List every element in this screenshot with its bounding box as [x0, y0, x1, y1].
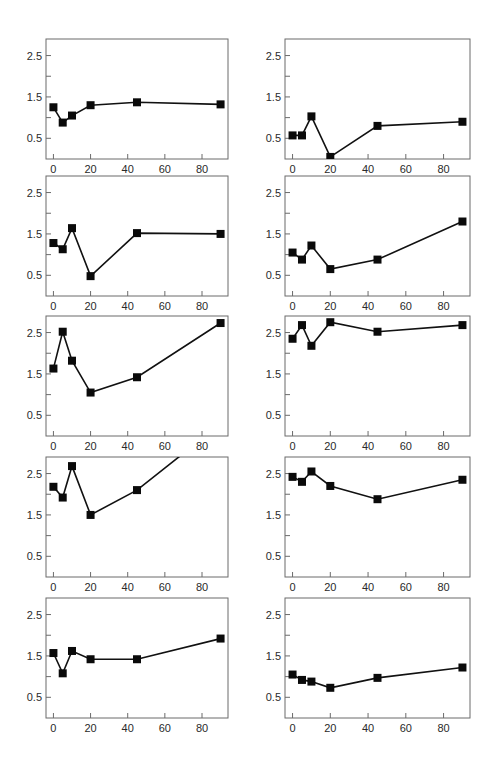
- data-point-square-icon: [289, 249, 297, 257]
- x-tick-label: 20: [324, 581, 336, 593]
- data-point-square-icon: [49, 365, 57, 373]
- y-tick-label: 1.5: [266, 228, 281, 240]
- y-tick-label: 2.5: [27, 187, 42, 199]
- y-tick-label: 2.5: [266, 468, 281, 480]
- x-tick-label: 40: [362, 163, 374, 175]
- data-point-square-icon: [289, 473, 297, 481]
- x-tick-label: 20: [324, 300, 336, 312]
- x-tick-label: 40: [122, 581, 134, 593]
- chart-panel-row2-right: 0.51.52.5020406080: [266, 176, 470, 312]
- data-point-square-icon: [307, 678, 315, 686]
- x-tick-label: 0: [289, 581, 295, 593]
- data-point-square-icon: [133, 229, 141, 237]
- x-tick-label: 40: [362, 581, 374, 593]
- x-tick-label: 80: [437, 722, 449, 734]
- x-tick-label: 20: [84, 163, 96, 175]
- x-tick-label: 40: [362, 300, 374, 312]
- x-tick-label: 60: [159, 722, 171, 734]
- data-point-square-icon: [68, 462, 76, 470]
- x-tick-label: 0: [50, 163, 56, 175]
- data-point-square-icon: [298, 321, 306, 329]
- data-point-square-icon: [87, 511, 95, 519]
- y-tick-label: 2.5: [27, 468, 42, 480]
- x-tick-label: 0: [50, 440, 56, 452]
- chart-panel-row3-left: 0.51.52.5020406080: [27, 316, 228, 452]
- data-point-square-icon: [133, 486, 141, 494]
- data-line: [53, 323, 220, 393]
- data-point-square-icon: [59, 669, 67, 677]
- data-point-square-icon: [458, 218, 466, 226]
- data-point-square-icon: [49, 483, 57, 491]
- x-tick-label: 60: [159, 163, 171, 175]
- data-point-square-icon: [326, 265, 334, 273]
- x-tick-label: 0: [50, 722, 56, 734]
- chart-panel-row4-right: 0.51.52.5020406080: [266, 457, 470, 593]
- y-tick-label: 1.5: [266, 509, 281, 521]
- y-tick-label: 2.5: [266, 50, 281, 62]
- y-tick-label: 2.5: [266, 609, 281, 621]
- data-point-square-icon: [59, 119, 67, 127]
- x-tick-label: 60: [400, 163, 412, 175]
- data-point-square-icon: [217, 635, 225, 643]
- data-point-square-icon: [68, 112, 76, 120]
- y-tick-label: 0.5: [27, 269, 42, 281]
- x-tick-label: 60: [159, 300, 171, 312]
- chart-panel-row1-left: 0.51.52.5020406080: [27, 39, 228, 175]
- x-tick-label: 80: [196, 163, 208, 175]
- chart-panel-row3-right: 0.51.52.5020406080: [266, 316, 470, 452]
- data-point-square-icon: [49, 103, 57, 111]
- data-point-square-icon: [458, 321, 466, 329]
- y-tick-label: 0.5: [27, 132, 42, 144]
- x-tick-label: 40: [122, 440, 134, 452]
- x-tick-label: 0: [50, 300, 56, 312]
- chart-panel-row1-right: 0.51.52.5020406080: [266, 39, 470, 175]
- y-tick-label: 0.5: [27, 691, 42, 703]
- data-point-square-icon: [87, 272, 95, 280]
- data-line: [53, 424, 220, 515]
- figure-grid: 0.51.52.50204060800.51.52.50204060800.51…: [0, 0, 493, 763]
- x-tick-label: 20: [84, 300, 96, 312]
- data-point-square-icon: [307, 467, 315, 475]
- data-point-square-icon: [326, 482, 334, 490]
- x-tick-label: 0: [50, 581, 56, 593]
- data-point-square-icon: [87, 655, 95, 663]
- x-tick-label: 0: [289, 163, 295, 175]
- data-point-square-icon: [307, 342, 315, 350]
- data-point-square-icon: [307, 112, 315, 120]
- y-tick-label: 0.5: [266, 409, 281, 421]
- y-tick-label: 0.5: [266, 269, 281, 281]
- data-point-square-icon: [49, 649, 57, 657]
- x-tick-label: 60: [400, 440, 412, 452]
- y-tick-label: 1.5: [27, 368, 42, 380]
- x-tick-label: 80: [437, 581, 449, 593]
- x-tick-label: 0: [289, 300, 295, 312]
- data-point-square-icon: [458, 118, 466, 126]
- y-tick-label: 1.5: [27, 228, 42, 240]
- data-point-square-icon: [298, 131, 306, 139]
- data-point-square-icon: [68, 357, 76, 365]
- x-tick-label: 80: [437, 300, 449, 312]
- x-tick-label: 40: [122, 722, 134, 734]
- data-point-square-icon: [87, 389, 95, 397]
- chart-panel-row5-right: 0.51.52.5020406080: [266, 598, 470, 734]
- y-tick-label: 2.5: [27, 50, 42, 62]
- data-point-square-icon: [133, 655, 141, 663]
- data-point-square-icon: [298, 256, 306, 264]
- data-point-square-icon: [49, 239, 57, 247]
- data-point-square-icon: [458, 664, 466, 672]
- y-tick-label: 0.5: [266, 132, 281, 144]
- y-tick-label: 1.5: [27, 650, 42, 662]
- y-tick-label: 0.5: [266, 550, 281, 562]
- data-point-square-icon: [298, 478, 306, 486]
- x-tick-label: 20: [84, 440, 96, 452]
- x-tick-label: 60: [159, 581, 171, 593]
- y-tick-label: 1.5: [266, 650, 281, 662]
- y-tick-label: 2.5: [266, 327, 281, 339]
- x-tick-label: 40: [362, 440, 374, 452]
- x-tick-label: 80: [196, 722, 208, 734]
- y-tick-label: 1.5: [27, 91, 42, 103]
- plot-frame: [285, 176, 470, 296]
- y-tick-label: 0.5: [27, 409, 42, 421]
- y-tick-label: 2.5: [27, 609, 42, 621]
- y-tick-label: 1.5: [27, 509, 42, 521]
